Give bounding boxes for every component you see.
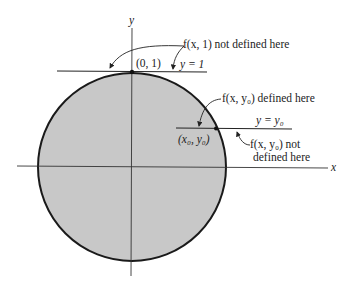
label-point-x0-y0: (x₀, y₀)	[178, 133, 210, 146]
arrow-not-defined	[237, 132, 250, 145]
y-axis-label: y	[128, 14, 135, 27]
x-axis-label: x	[330, 161, 337, 173]
label-y-equals-y0: y = y₀	[255, 114, 284, 127]
annot-not-defined-right-1: f(x, y₀) not	[250, 138, 301, 151]
diagram-svg: x y (0, 1) y = 1 f(x, 1) not defined her…	[0, 0, 349, 286]
point-x0-y0	[214, 127, 218, 131]
annot-not-defined-top: f(x, 1) not defined here	[183, 38, 289, 51]
label-y-equals-1: y = 1	[179, 58, 204, 71]
annot-not-defined-right-2: defined here	[253, 151, 310, 163]
diagram-canvas: x y (0, 1) y = 1 f(x, 1) not defined her…	[0, 0, 349, 286]
label-point-0-1: (0, 1)	[136, 57, 161, 70]
point-0-1	[130, 70, 134, 74]
annot-defined-here: f(x, y₀) defined here	[222, 92, 315, 105]
